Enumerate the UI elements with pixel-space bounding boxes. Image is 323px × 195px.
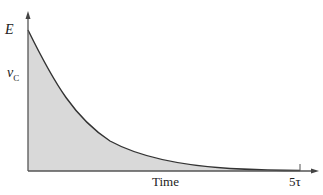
- y-var-subscript: C: [13, 73, 19, 83]
- y-axis-label: vC: [7, 65, 19, 83]
- x-tick-label-5tau: 5τ: [289, 174, 301, 190]
- decay-chart: [0, 0, 323, 195]
- y-axis-arrow-icon: [26, 11, 31, 19]
- y-label-e: E: [5, 22, 14, 38]
- x-axis-label: Time: [152, 174, 179, 190]
- x-axis-arrow-icon: [311, 169, 319, 174]
